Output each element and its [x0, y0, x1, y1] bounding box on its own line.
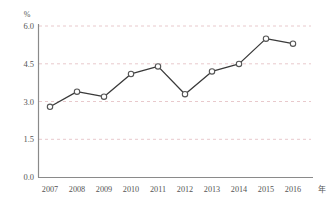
chart-screenshot: 6.0 4.5 3.0 1.5 0.0 % 年 2007 2008 2009 2…	[0, 0, 333, 206]
y-tick-label-0-0: 0.0	[23, 172, 34, 182]
x-tick-label-2012: 2012	[177, 185, 193, 194]
x-tick-label-2009: 2009	[96, 185, 112, 194]
y-tick-label-4-5: 4.5	[23, 59, 34, 69]
x-tick-label-2015: 2015	[258, 185, 274, 194]
y-axis-unit-label: %	[24, 10, 31, 19]
x-tick-label-2013: 2013	[204, 185, 220, 194]
data-point-2008	[74, 89, 79, 94]
x-tick-label-2010: 2010	[123, 185, 139, 194]
data-point-2007	[47, 104, 52, 109]
data-point-2016	[290, 41, 295, 46]
data-point-2013	[209, 69, 214, 74]
x-tick-label-2016: 2016	[285, 185, 301, 194]
data-point-2009	[101, 94, 106, 99]
y-tick-label-3-0: 3.0	[23, 97, 34, 107]
data-point-2012	[182, 91, 187, 96]
data-point-2015	[263, 36, 268, 41]
data-point-2010	[128, 71, 133, 76]
y-tick-label-1-5: 1.5	[23, 134, 34, 144]
x-tick-label-2008: 2008	[69, 185, 85, 194]
x-tick-label-2007: 2007	[42, 185, 58, 194]
data-point-2014	[236, 61, 241, 66]
x-axis-unit-label: 年	[318, 184, 326, 194]
x-tick-label-2014: 2014	[231, 185, 247, 194]
x-tick-label-2011: 2011	[150, 185, 166, 194]
chart-background	[0, 0, 333, 206]
line-chart: 6.0 4.5 3.0 1.5 0.0 % 年 2007 2008 2009 2…	[0, 0, 333, 206]
y-tick-label-6-0: 6.0	[23, 21, 34, 31]
data-point-2011	[155, 64, 160, 69]
